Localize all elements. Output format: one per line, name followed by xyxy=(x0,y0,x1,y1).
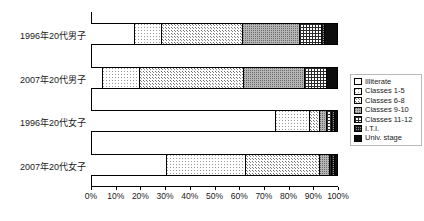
legend-item[interactable]: Illiterate xyxy=(354,78,419,86)
x-axis-tick xyxy=(239,187,240,190)
x-axis-tick xyxy=(165,187,166,190)
stacked-bar[interactable] xyxy=(91,67,338,89)
bar-row xyxy=(91,154,338,176)
bar-segment[interactable] xyxy=(320,155,330,175)
legend-label: Classes 9-10 xyxy=(365,106,409,114)
x-axis-tick xyxy=(264,187,265,190)
legend-item[interactable]: Univ. stage xyxy=(354,134,419,142)
bar-segment[interactable] xyxy=(276,111,310,131)
bar-segment[interactable] xyxy=(335,111,337,131)
x-axis-tick xyxy=(140,187,141,190)
x-axis-tick-label: 20% xyxy=(132,191,149,201)
chart-legend: IlliterateClasses 1-5Classes 6-8Classes … xyxy=(350,74,422,146)
bar-segment[interactable] xyxy=(91,111,276,131)
bar-segment[interactable] xyxy=(167,155,246,175)
x-axis-tick-label: 60% xyxy=(231,191,248,201)
x-axis-tick-label: 80% xyxy=(280,191,297,201)
x-axis-tick-label: 90% xyxy=(305,191,322,201)
category-label: 1996年20代女子 xyxy=(0,116,86,129)
x-axis-tick xyxy=(338,187,339,190)
bar-segment[interactable] xyxy=(310,111,320,131)
bar-segment[interactable] xyxy=(91,24,135,44)
legend-label: Classes 6-8 xyxy=(365,97,405,105)
bar-segment[interactable] xyxy=(300,24,322,44)
stacked-bar[interactable] xyxy=(91,23,338,45)
bar-row xyxy=(91,67,338,89)
legend-item[interactable]: Classes 1-5 xyxy=(354,87,419,95)
bar-segment[interactable] xyxy=(103,68,140,88)
legend-label: Classes 1-5 xyxy=(365,87,405,95)
x-axis-tick xyxy=(289,187,290,190)
x-axis-tick-label: 10% xyxy=(107,191,124,201)
bar-segment[interactable] xyxy=(327,68,337,88)
x-axis-tick-label: 100% xyxy=(327,191,349,201)
legend-swatch-icon xyxy=(354,135,362,142)
legend-swatch-icon xyxy=(354,125,362,132)
legend-item[interactable]: Classes 9-10 xyxy=(354,106,419,114)
bar-segment[interactable] xyxy=(91,155,167,175)
bar-segment[interactable] xyxy=(135,24,162,44)
legend-swatch-icon xyxy=(354,78,362,85)
x-axis-tick xyxy=(313,187,314,190)
x-axis-tick-label: 40% xyxy=(181,191,198,201)
legend-swatch-icon xyxy=(354,116,362,123)
bar-segment[interactable] xyxy=(140,68,243,88)
x-axis-tick xyxy=(116,187,117,190)
x-axis-tick-label: 50% xyxy=(206,191,223,201)
bar-row xyxy=(91,110,338,132)
legend-swatch-icon xyxy=(354,88,362,95)
legend-swatch-icon xyxy=(354,107,362,114)
stacked-bar[interactable] xyxy=(91,110,338,132)
stacked-bar-chart: 1996年20代男子2007年20代男子1996年20代女子2007年20代女子… xyxy=(0,0,424,221)
legend-label: Classes 11-12 xyxy=(365,116,412,124)
bar-segment[interactable] xyxy=(320,111,327,131)
x-axis-tick-label: 0% xyxy=(85,191,97,201)
stacked-bar[interactable] xyxy=(91,154,338,176)
x-axis-tick xyxy=(215,187,216,190)
x-axis-tick xyxy=(91,187,92,190)
category-label: 1996年20代男子 xyxy=(0,29,86,42)
legend-item[interactable]: I.T.I. xyxy=(354,125,419,133)
legend-label: I.T.I. xyxy=(365,125,379,133)
bar-row xyxy=(91,23,338,45)
x-axis-tick-label: 70% xyxy=(255,191,272,201)
category-label: 2007年20代男子 xyxy=(0,73,86,86)
bar-segment[interactable] xyxy=(325,24,337,44)
legend-label: Univ. stage xyxy=(365,134,402,142)
bar-segment[interactable] xyxy=(244,68,306,88)
category-label: 2007年20代女子 xyxy=(0,160,86,173)
plot-area xyxy=(91,12,338,187)
legend-label: Illiterate xyxy=(365,78,391,86)
bar-segment[interactable] xyxy=(162,24,243,44)
legend-swatch-icon xyxy=(354,97,362,104)
bar-segment[interactable] xyxy=(305,68,327,88)
bar-segment[interactable] xyxy=(246,155,320,175)
bar-segment[interactable] xyxy=(335,155,337,175)
legend-item[interactable]: Classes 6-8 xyxy=(354,97,419,105)
x-axis-tick xyxy=(190,187,191,190)
bar-segment[interactable] xyxy=(91,68,103,88)
legend-item[interactable]: Classes 11-12 xyxy=(354,116,419,124)
bar-segment[interactable] xyxy=(243,24,300,44)
x-axis-tick-label: 30% xyxy=(157,191,174,201)
x-axis: 0%10%20%30%40%50%60%70%80%90%100% xyxy=(91,187,339,209)
